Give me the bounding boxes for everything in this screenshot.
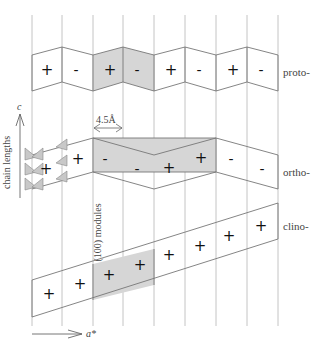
ortho-sign: - xyxy=(134,162,139,176)
proto-sign: + xyxy=(41,63,54,78)
a-axis-label: a* xyxy=(86,328,96,339)
ortho-sign: + xyxy=(195,151,208,166)
proto-band xyxy=(32,47,278,91)
chain-lengths-label: chain lengths xyxy=(1,136,12,189)
pyroxene-polytype-diagram: + - + - + - + - + + - - + + - - + + + + … xyxy=(0,0,322,348)
ortho-band xyxy=(25,138,278,190)
a-axis-arrow xyxy=(32,330,82,338)
ortho-sign: - xyxy=(228,152,233,166)
clino-sign: + xyxy=(223,229,236,244)
proto-sign: + xyxy=(104,63,117,78)
ortho-sign: - xyxy=(102,152,107,166)
proto-sign: + xyxy=(165,63,178,78)
clino-sign: + xyxy=(163,248,176,263)
clino-sign: + xyxy=(255,219,268,234)
ortho-sign: - xyxy=(259,162,264,176)
clino-sign: + xyxy=(74,277,87,292)
c-axis-arrow xyxy=(16,114,24,198)
spacing-arrow xyxy=(94,124,122,132)
proto-sign: - xyxy=(258,63,263,77)
clino-label: clino- xyxy=(283,220,309,232)
clino-sign: + xyxy=(194,239,207,254)
ortho-sign: + xyxy=(163,161,176,176)
clino-sign: + xyxy=(134,258,147,273)
proto-sign: + xyxy=(227,63,240,78)
c-axis-label: c xyxy=(17,101,21,112)
modules-label: (100) modules xyxy=(92,203,103,261)
ortho-label: ortho- xyxy=(283,166,310,178)
proto-sign: - xyxy=(196,63,201,77)
proto-sign: - xyxy=(134,63,139,77)
proto-label: proto- xyxy=(283,66,310,78)
proto-sign: - xyxy=(73,63,78,77)
spacing-label: 4.5Å xyxy=(96,114,116,125)
ortho-sign: + xyxy=(72,152,85,167)
clino-sign: + xyxy=(43,287,56,302)
clino-sign: + xyxy=(103,268,116,283)
ortho-sign: + xyxy=(40,162,53,177)
clino-band xyxy=(32,203,278,317)
